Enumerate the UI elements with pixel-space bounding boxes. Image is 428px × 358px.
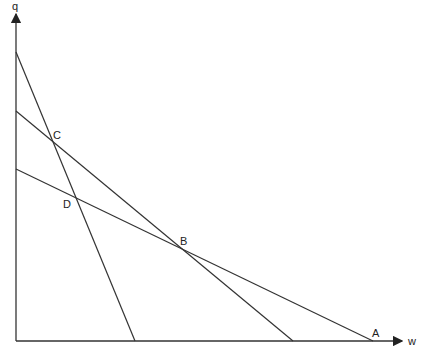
point-label-d: D [63,198,71,210]
point-label-c: C [53,129,61,141]
point-label-a: A [372,327,380,339]
middle-line [16,111,293,341]
shallow-line [16,169,373,341]
point-label-b: B [180,235,187,247]
steep-line [16,52,135,341]
x-axis-label: w [407,335,416,347]
y-axis-label: q [12,0,18,12]
diagram: q w A B C D [0,0,428,358]
